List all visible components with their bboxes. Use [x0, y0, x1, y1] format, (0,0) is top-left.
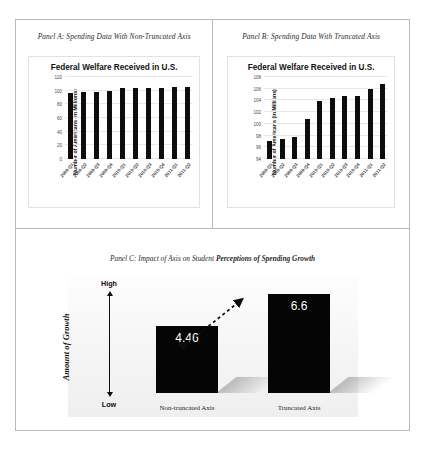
y-axis-tick-label: 60: [57, 116, 62, 121]
x-axis-tick: 2010-Q3: [146, 161, 151, 201]
bar: 4.46: [156, 326, 218, 393]
panel-c-caption-plain: Panel C: Impact of Axis on Student: [110, 254, 216, 263]
panel-b-plot-area: 949698100102104106108: [264, 77, 388, 159]
x-axis-tick: 2009-Q4: [305, 161, 310, 201]
panel-a-chart-title: Federal Welfare Received in U.S.: [29, 63, 199, 72]
y-axis-tick-label: 40: [57, 129, 62, 134]
bar-shadow: [328, 377, 394, 393]
x-axis-tick: 2009-Q3: [94, 161, 99, 201]
x-axis-tick: 2010-Q2: [330, 161, 335, 201]
panel-b-bars: [264, 77, 388, 159]
panel-a-caption: Panel A: Spending Data With Non-Truncate…: [16, 32, 212, 41]
y-axis-tick-label: 120: [54, 75, 62, 80]
bar-value-label: 6.6: [268, 299, 330, 313]
y-axis-tick-label: 80: [57, 102, 62, 107]
x-axis-tick: 2011-Q1: [172, 161, 177, 201]
x-axis-tick: 2009-Q3: [292, 161, 297, 201]
bar: [267, 141, 272, 159]
panel-a-plot-area: 020406080100120: [65, 77, 193, 159]
x-axis-tick: 2010-Q4: [159, 161, 164, 201]
bar-value-label: 4.46: [156, 331, 218, 345]
y-axis-tick-label: 106: [253, 86, 261, 91]
bar: [94, 92, 99, 159]
y-axis-tick-label: 102: [253, 110, 261, 115]
bar: [292, 137, 297, 159]
panel-c-y-axis-label: Amount of Growth: [61, 314, 71, 381]
bar: [81, 92, 86, 159]
bar: [146, 88, 151, 159]
bar: [68, 93, 73, 159]
x-axis-tick: 2011-Q2: [380, 161, 385, 201]
bar: [120, 88, 125, 159]
y-axis-tick-label: 100: [253, 121, 261, 126]
panel-c-axis-high-label: High: [101, 279, 117, 288]
panel-a-bars: [65, 77, 193, 159]
panel-c-growth-arrow-axis: [109, 295, 110, 393]
y-axis-tick-label: 100: [54, 88, 62, 93]
y-axis-tick-label: 96: [256, 145, 261, 150]
x-axis-tick: 2011-Q2: [185, 161, 190, 201]
x-axis-tick: 2010-Q1: [120, 161, 125, 201]
y-axis-tick-label: 108: [253, 75, 261, 80]
x-axis-tick: 2009-Q4: [107, 161, 112, 201]
bar: [172, 87, 177, 159]
panel-b: Panel B: Spending Data With Truncated Ax…: [213, 20, 409, 228]
x-axis-tick-label: 2009-Q1: [59, 162, 74, 178]
top-panel-row: Panel A: Spending Data With Non-Truncate…: [16, 20, 409, 228]
y-axis-tick-label: 94: [256, 157, 261, 162]
x-axis-tick: 2009-Q1: [267, 161, 272, 201]
bar-category-label: Non-truncated Axis: [156, 404, 218, 412]
x-axis-tick: 2009-Q2: [280, 161, 285, 201]
bar: [380, 84, 385, 159]
panel-a: Panel A: Spending Data With Non-Truncate…: [16, 20, 213, 228]
panel-c-plot-area: Amount of Growth High Low 4.46Non-trunca…: [68, 277, 358, 417]
y-axis-tick-label: 20: [57, 143, 62, 148]
bar: [330, 98, 335, 159]
x-axis-tick: 2010-Q2: [133, 161, 138, 201]
y-axis-tick-label: 98: [256, 133, 261, 138]
x-axis-tick: 2010-Q4: [355, 161, 360, 201]
bar: [133, 88, 138, 159]
panel-a-chart: Federal Welfare Received in U.S. Number …: [28, 56, 200, 208]
x-axis-tick: 2009-Q2: [81, 161, 86, 201]
bar-category-label: Truncated Axis: [268, 404, 330, 412]
panel-b-chart: Federal Welfare Received in U.S. Number …: [227, 56, 395, 208]
figure-frame: Panel A: Spending Data With Non-Truncate…: [15, 19, 410, 431]
panel-b-x-axis-ticks: 2009-Q12009-Q22009-Q32009-Q42010-Q12010-…: [264, 161, 388, 201]
bar: [355, 96, 360, 159]
panel-b-caption: Panel B: Spending Data With Truncated Ax…: [213, 32, 409, 41]
panel-b-chart-title: Federal Welfare Received in U.S.: [228, 63, 394, 72]
panel-c: Panel C: Impact of Axis on Student Perce…: [16, 229, 409, 431]
panel-a-x-axis-ticks: 2009-Q12009-Q22009-Q32009-Q42010-Q12010-…: [65, 161, 193, 201]
panel-c-caption: Panel C: Impact of Axis on Student Perce…: [16, 254, 409, 263]
bar: [280, 139, 285, 160]
panel-c-caption-bold: Perceptions of Spending Growth: [216, 254, 315, 263]
figure-bottom-caption: [8, 441, 417, 451]
x-axis-tick: 2010-Q3: [342, 161, 347, 201]
bar: [305, 119, 310, 159]
x-axis-tick: 2011-Q1: [368, 161, 373, 201]
bar: [342, 96, 347, 159]
bar: [317, 101, 322, 159]
x-axis-tick: 2009-Q1: [68, 161, 73, 201]
bar: [185, 87, 190, 159]
bar: [159, 88, 164, 159]
bar: [368, 89, 373, 159]
y-axis-tick-label: 0: [60, 157, 63, 162]
y-axis-tick-label: 104: [253, 98, 261, 103]
panel-c-axis-low-label: Low: [102, 400, 116, 409]
x-axis-tick: 2010-Q1: [317, 161, 322, 201]
bar: 6.6: [268, 294, 330, 393]
bar: [107, 91, 112, 159]
